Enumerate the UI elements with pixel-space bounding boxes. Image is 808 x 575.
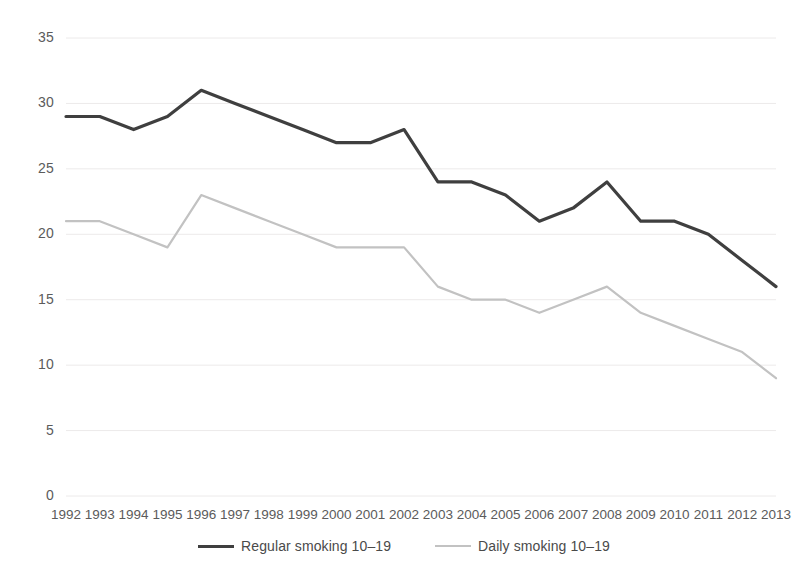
line-chart: 05101520253035 1992199319941995199619971… [0, 0, 808, 575]
chart-legend: Regular smoking 10–19Daily smoking 10–19 [0, 538, 808, 554]
legend-entry-daily-smoking: Daily smoking 10–19 [435, 538, 610, 554]
legend-label: Regular smoking 10–19 [241, 538, 391, 554]
legend-entry-regular-smoking: Regular smoking 10–19 [198, 538, 391, 554]
legend-label: Daily smoking 10–19 [478, 538, 610, 554]
plot-area [0, 0, 808, 575]
legend-swatch-line-icon [435, 545, 471, 547]
series-line-regular-smoking [66, 90, 776, 286]
legend-swatch-line-icon [198, 545, 234, 548]
